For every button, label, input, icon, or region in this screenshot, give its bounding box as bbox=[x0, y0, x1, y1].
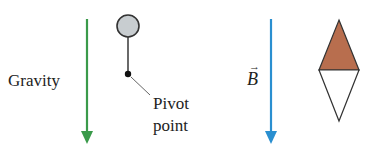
needle-north-half bbox=[319, 20, 359, 70]
pendulum bbox=[117, 15, 150, 95]
gravity-label: Gravity bbox=[8, 71, 60, 90]
magnetic-field-arrow bbox=[265, 19, 277, 144]
pivot-label-line2: point bbox=[153, 116, 188, 135]
compass-needle bbox=[319, 20, 359, 121]
diagram-canvas: Gravity Pivot point B → bbox=[0, 0, 372, 152]
needle-south-half bbox=[319, 70, 359, 121]
field-label: B bbox=[247, 69, 258, 89]
pendulum-bob bbox=[117, 15, 139, 37]
pivot-label-line1: Pivot bbox=[153, 94, 189, 113]
gravity-arrow bbox=[81, 19, 93, 144]
vector-arrow-icon: → bbox=[249, 60, 260, 72]
pivot-point-dot bbox=[125, 71, 131, 77]
pivot-leader-line bbox=[131, 77, 150, 95]
